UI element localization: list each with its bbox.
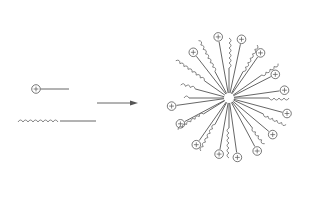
hydrocarbon-tail: [181, 84, 196, 89]
hydrocarbon-tail: [252, 128, 265, 144]
micelle-structure: [167, 33, 291, 162]
hydrocarbon-tail: [269, 98, 289, 100]
plus-head-icon: [189, 48, 198, 57]
plus-head-icon: [32, 85, 41, 94]
hydrocarbon-tail: [229, 38, 231, 68]
plus-head-icon: [237, 35, 246, 44]
hydrocarbon-tail: [199, 41, 216, 72]
micelle-diagram: [0, 0, 324, 198]
legend-tail-molecule: [18, 120, 96, 122]
plus-head-icon: [268, 130, 277, 139]
transition-arrow: [97, 101, 138, 106]
hydrocarbon-tail: [227, 128, 229, 158]
plus-head-icon: [192, 140, 201, 149]
plus-head-icon: [280, 86, 289, 95]
hydrocarbon-tail: [184, 96, 189, 98]
hydrocarbon-tail: [176, 60, 205, 81]
diagram-canvas: [0, 0, 324, 198]
hydrocarbon-tail: [263, 114, 286, 125]
plus-head-icon: [215, 150, 224, 159]
legend-head-molecule: [32, 85, 69, 94]
plus-head-icon: [167, 102, 176, 111]
plus-head-icon: [283, 109, 292, 118]
plus-head-icon: [271, 70, 280, 79]
plus-head-icon: [233, 153, 242, 162]
plus-head-icon: [253, 147, 262, 156]
plus-head-icon: [214, 33, 223, 42]
plus-head-icon: [256, 49, 265, 58]
